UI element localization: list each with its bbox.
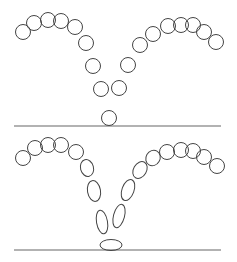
ball-frame <box>160 145 175 160</box>
ball-frame <box>16 151 31 166</box>
ball-frame <box>86 180 102 203</box>
ball-frame <box>86 59 101 74</box>
bouncing-ball-diagram <box>0 0 237 262</box>
ball-frame <box>79 158 96 178</box>
ball-frame <box>100 240 122 251</box>
ball-frame <box>197 25 212 40</box>
ball-frame <box>130 159 150 181</box>
squash-stretch-ball-panel <box>14 138 225 251</box>
ball-frame <box>119 178 138 203</box>
ball-frame <box>68 20 83 35</box>
ball-frame <box>111 203 128 229</box>
ball-frame <box>27 16 42 31</box>
ball-frame <box>146 27 161 42</box>
ball-frame <box>197 150 212 165</box>
ball-frame <box>94 82 109 97</box>
ball-frame <box>79 36 94 51</box>
ball-frame <box>133 38 148 53</box>
ball-frame <box>210 159 225 174</box>
ball-frame <box>209 35 224 50</box>
ball-frame <box>186 144 201 159</box>
rigid-ball-panel <box>14 13 224 127</box>
ball-frame <box>112 81 127 96</box>
ball-frame <box>102 111 117 126</box>
ball-frame <box>121 58 136 73</box>
ball-frame <box>69 145 84 160</box>
ball-frame <box>28 141 43 156</box>
ball-frame <box>186 18 201 33</box>
ball-frame <box>16 25 31 40</box>
ball-frame <box>94 209 109 235</box>
